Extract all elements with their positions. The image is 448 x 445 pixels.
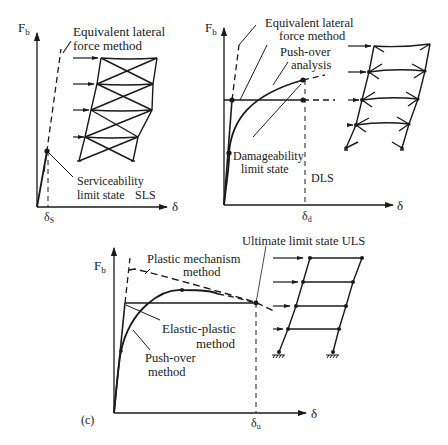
panel-b-dls-plateau-point (300, 97, 305, 102)
panel-b-dls-label-1: Damageability (233, 149, 304, 163)
panel-b-method-label-1: Equivalent lateral (265, 16, 354, 30)
panel-b-pushover-curve (224, 80, 303, 205)
panel-b-damage-leader (253, 84, 301, 137)
panel-c-delta-u-tick: δu (251, 416, 261, 431)
panel-c-pushover-label-1: Push-over (145, 351, 197, 365)
panel-c-lateral-loads (273, 258, 303, 329)
panel-a-delta-s-tick: δS (44, 210, 54, 225)
panel-b-dls-abbr: DLS (311, 171, 334, 185)
panel-c-uls-leader (256, 246, 266, 303)
panel-b-x-label: δ (397, 198, 403, 213)
panel-c-pushover-peak-point (180, 288, 184, 292)
panel-a-method-leader (63, 41, 71, 53)
panel-a-sls-label-2: limit state (77, 188, 125, 202)
panel-b-yield-point (229, 97, 234, 102)
panel-c-pushover-label-2: method (148, 365, 186, 379)
limit-state-diagram: Fb δ δS Equivalent lateral force method … (0, 0, 448, 445)
panel-b-equivalent-force-dashed (232, 45, 239, 100)
panel-c-pushover-leader (133, 330, 150, 350)
panel-c-tag: (c) (81, 413, 94, 427)
panel-b-method-leader (239, 25, 256, 45)
panel-c-plastic-label-1: Plastic mechanism (147, 252, 241, 266)
panel-b-damage-point (226, 150, 231, 155)
panel-c-ultimate: Fb δ δu (c) Ultimate limit state ULS Pla… (81, 234, 365, 431)
panel-c-pushover-low-point (119, 349, 123, 353)
panel-a-sls-abbr: SLS (135, 188, 156, 202)
panel-b-y-label: Fb (205, 20, 217, 37)
panel-b-pushover-label-1: Push-over (280, 45, 332, 59)
panel-c-pinned-supports (272, 355, 339, 358)
panel-c-uls-label: Ultimate limit state ULS (242, 234, 365, 248)
panel-c-plastic-label-2: method (183, 265, 221, 279)
panel-b-method-label-2: force method (279, 29, 346, 43)
panel-a-x-label: δ (172, 199, 178, 214)
panel-a-y-label: Fb (18, 20, 30, 37)
panel-c-elastic-dashed (125, 258, 130, 303)
panel-c-sway-frame (279, 258, 362, 352)
panel-c-y-label: Fb (94, 258, 106, 275)
panel-b-dls-label-2: limit state (241, 162, 289, 176)
panel-b-pushover-dashed-tail (303, 75, 325, 80)
panel-b-pushover-label-2: analysis (291, 58, 331, 72)
panel-a-sls-label-1: Serviceability (77, 174, 144, 188)
panel-a-sls-leader (47, 151, 73, 177)
panel-b-pushover-leader (273, 62, 288, 85)
panel-c-elastic-plastic-label-1: Elastic-plastic (162, 321, 236, 336)
panel-a-serviceability: Fb δ δS Equivalent lateral force method … (18, 20, 178, 225)
panel-b-moment-frame (344, 44, 430, 150)
panel-a-method-label-2: force method (73, 38, 142, 53)
panel-b-delta-d-tick: δd (302, 209, 312, 224)
panel-a-method-label-1: Equivalent lateral (73, 24, 165, 39)
panel-b-method-leader-2 (240, 45, 267, 100)
panel-c-x-label: δ (311, 406, 317, 421)
panel-c-pushover-dashed-tail (218, 294, 255, 303)
panel-c-frame-hinges (277, 256, 364, 354)
panel-b-pushover-peak-point (300, 77, 305, 82)
panel-b-damageability: Fb δ δd Equivalent lateral force method … (205, 16, 430, 224)
panel-c-elastic-plastic-label-2: method (196, 336, 235, 351)
